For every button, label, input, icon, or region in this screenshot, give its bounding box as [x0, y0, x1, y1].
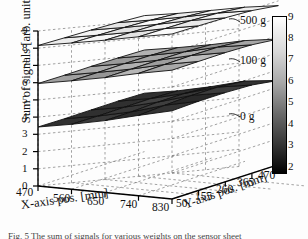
z-tick-marks — [33, 31, 38, 186]
colorbar-tick-5: 5 — [288, 95, 294, 107]
annotation-500g: 500 g — [240, 14, 266, 26]
colorbar — [272, 16, 287, 174]
z-tick-1: 1 — [22, 162, 28, 174]
figure-3d-surface-plot: 9 8 7 6 5 4 3 2 1 0 470 560 650 740 830 … — [0, 0, 308, 239]
colorbar-tick-9: 9 — [288, 10, 294, 22]
colorbar-tick-7: 7 — [288, 52, 294, 64]
z-tick-2: 2 — [22, 145, 28, 157]
colorbar-tick-6: 6 — [288, 74, 294, 86]
colorbar-tick-2: 2 — [288, 160, 294, 172]
z-axis-label: Sum of signals [arb. unit] — [19, 0, 34, 130]
colorbar-tick-8: 8 — [288, 31, 294, 43]
annotation-100g: 100 g — [240, 54, 266, 66]
annotation-0g: 0 g — [240, 110, 254, 122]
colorbar-tick-4: 4 — [288, 117, 294, 129]
x-tick-830: 830 — [152, 201, 169, 213]
x-tick-740: 740 — [120, 198, 137, 210]
figure-caption: Fig. 5 The sum of signals for various we… — [8, 231, 304, 239]
colorbar-tick-3: 3 — [288, 138, 294, 150]
